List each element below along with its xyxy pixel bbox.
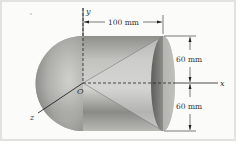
dim-length-label: 100 mm	[108, 18, 139, 27]
x-axis-label: x	[220, 79, 225, 88]
dim-length-arrow-right	[157, 21, 162, 24]
composite-solid-diagram: y x z O 100 mm 60 mm 60 mm	[0, 0, 236, 141]
dim-upper-arrow-top	[189, 37, 192, 42]
dim-length-arrow-left	[84, 21, 89, 24]
y-axis-label: y	[85, 7, 91, 16]
speck	[30, 13, 31, 14]
dim-upper-radius-label: 60 mm	[176, 55, 202, 64]
end-face-inner	[163, 36, 175, 131]
origin-label: O	[77, 87, 84, 96]
dim-lower-radius-label: 60 mm	[176, 102, 202, 111]
dim-lower-arrow-top	[189, 84, 192, 89]
dim-upper-arrow-bottom	[189, 77, 192, 82]
hemisphere	[36, 36, 84, 131]
z-axis-label: z	[29, 113, 35, 122]
dim-lower-arrow-bottom	[189, 125, 192, 130]
